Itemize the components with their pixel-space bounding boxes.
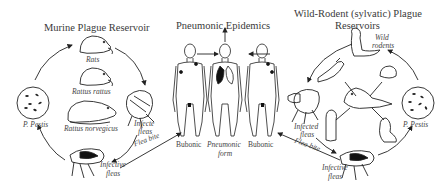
label-rattus-norvegicus: Rattus norvegicus (64, 124, 118, 133)
rattus-norvegicus-icon (68, 101, 116, 124)
sylvatic-title-line1: Wild-Rodent (sylvatic) Plague (294, 8, 422, 19)
infective-flea-left-icon (70, 149, 104, 178)
pestis-dish-right-icon (402, 87, 434, 119)
wild-rodent-center-icon (344, 88, 392, 108)
rat-icon (80, 36, 113, 54)
label-bubonic-left: Bubonic (176, 140, 201, 149)
infected-flea-right-icon (288, 89, 319, 124)
label-infective-fleas-right-1: Infective (322, 163, 348, 172)
human-figure-bubonic-right (245, 44, 279, 136)
label-pestis-right: P. Pestis (403, 120, 428, 129)
murine-cycle (35, 45, 181, 168)
pneumonic-arrows (197, 28, 270, 54)
label-rattus-rattus: Rattus rattus (72, 87, 111, 96)
label-rats: Rats (86, 55, 99, 64)
label-infective-fleas-left-1: Infective (100, 160, 126, 169)
human-figure-pneumonic (208, 44, 242, 136)
wild-rodent-prairie-dog-icon (326, 110, 337, 141)
sylvatic-title-line2: Reservoirs (335, 20, 380, 31)
label-wild-rodents-2: rodents (372, 41, 394, 50)
label-infective-fleas-right-2: fleas (328, 172, 342, 181)
wild-rodent-hamster-icon (380, 66, 396, 78)
label-bubonic-right: Bubonic (248, 140, 273, 149)
label-pneumonic-form-1: Pneumonic (207, 140, 241, 149)
label-infective-fleas-left-2: fleas (106, 169, 120, 178)
label-pneumonic-form-2: form (218, 149, 232, 158)
murine-title: Murine Plague Reservoir (44, 22, 150, 33)
pneumonic-title: Pneumonic Epidemics (176, 20, 270, 31)
wild-rodent-marmot-icon (380, 118, 397, 142)
rattus-rattus-icon (80, 68, 113, 86)
label-pestis-left: P. Pestis (23, 120, 48, 129)
human-figure-bubonic-left (173, 44, 207, 136)
pestis-dish-left-icon (17, 87, 49, 119)
